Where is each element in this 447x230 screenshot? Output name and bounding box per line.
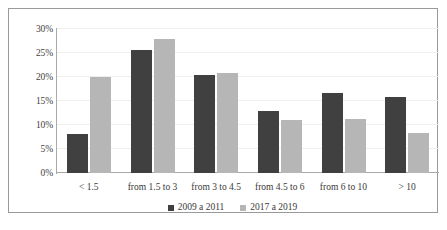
bar-series1 bbox=[194, 75, 215, 173]
y-axis-tick-label: 0% bbox=[13, 168, 53, 178]
bar-group bbox=[121, 29, 185, 173]
bar-group bbox=[312, 29, 376, 173]
legend-swatch-icon bbox=[240, 205, 246, 211]
figure-caption bbox=[10, 219, 430, 228]
chart-frame: 0%5%10%15%20%25%30% < 1.5from 1.5 to 3fr… bbox=[8, 8, 438, 213]
bar-series2 bbox=[154, 39, 175, 173]
y-axis-tick-label: 5% bbox=[13, 144, 53, 154]
bar-group bbox=[57, 29, 121, 173]
x-axis-tick-label: from 3 to 4.5 bbox=[184, 181, 248, 193]
bar-series2 bbox=[281, 120, 302, 173]
bar-series1 bbox=[67, 134, 88, 173]
bar-group bbox=[375, 29, 439, 173]
bar-group bbox=[248, 29, 312, 173]
bar-series2 bbox=[345, 119, 366, 173]
figure-container: 0%5%10%15%20%25%30% < 1.5from 1.5 to 3fr… bbox=[0, 0, 447, 230]
bar-series2 bbox=[408, 133, 429, 173]
y-axis-tick-label: 25% bbox=[13, 48, 53, 58]
bar-group bbox=[184, 29, 248, 173]
x-axis-tick-label: > 10 bbox=[375, 181, 439, 193]
plot-area bbox=[57, 29, 439, 173]
legend-item[interactable]: 2009 a 2011 bbox=[168, 202, 225, 213]
y-axis-tick-label: 15% bbox=[13, 96, 53, 106]
legend-label: 2009 a 2011 bbox=[178, 202, 225, 213]
bar-series1 bbox=[131, 50, 152, 173]
y-axis-tick-label: 30% bbox=[13, 24, 53, 34]
y-axis-labels: 0%5%10%15%20%25%30% bbox=[9, 9, 53, 230]
bar-series1 bbox=[322, 93, 343, 173]
legend-item[interactable]: 2017 a 2019 bbox=[240, 202, 297, 213]
x-axis-tick-label: from 1.5 to 3 bbox=[121, 181, 185, 193]
x-axis-tick-label: from 4.5 to 6 bbox=[248, 181, 312, 193]
legend-swatch-icon bbox=[168, 205, 174, 211]
bar-series2 bbox=[217, 73, 238, 173]
bar-series1 bbox=[385, 97, 406, 173]
x-axis-category-labels: < 1.5from 1.5 to 3from 3 to 4.5from 4.5 … bbox=[57, 181, 439, 197]
bar-series1 bbox=[258, 111, 279, 173]
legend-label: 2017 a 2019 bbox=[250, 202, 297, 213]
x-axis-tick-label: < 1.5 bbox=[57, 181, 121, 193]
x-axis-tick-label: from 6 to 10 bbox=[312, 181, 376, 193]
y-axis-tick-label: 10% bbox=[13, 120, 53, 130]
chart-legend: 2009 a 20112017 a 2019 bbox=[9, 202, 447, 213]
bar-series2 bbox=[90, 77, 111, 173]
y-axis-tick-label: 20% bbox=[13, 72, 53, 82]
